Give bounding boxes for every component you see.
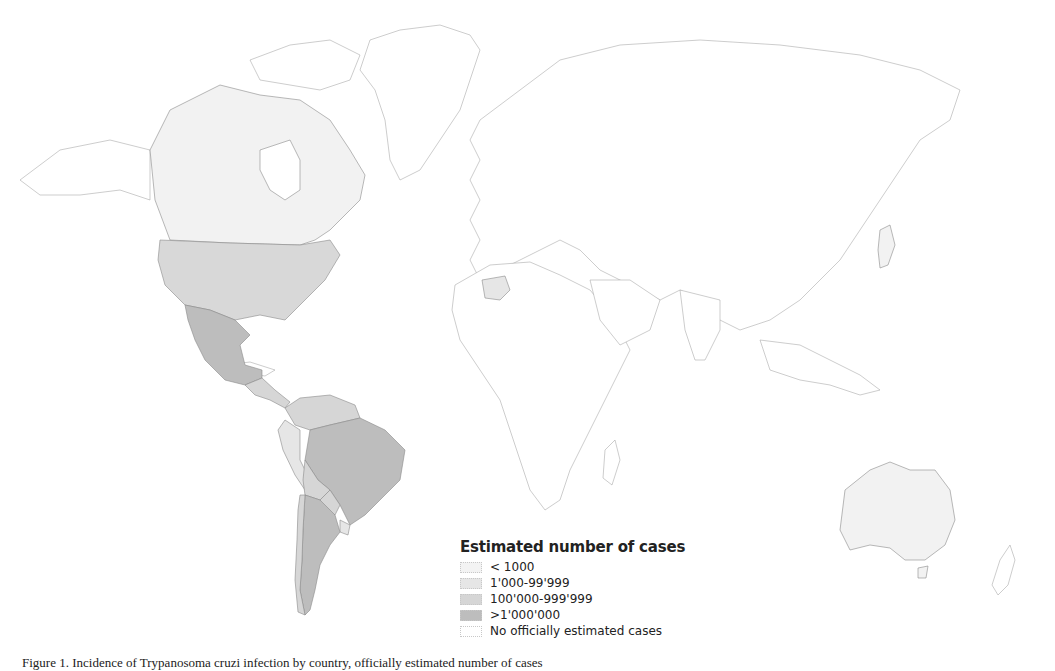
new-zealand bbox=[992, 545, 1015, 595]
figure-caption: Figure 1. Incidence of Trypanosoma cruzi… bbox=[22, 655, 543, 671]
arctic-islands bbox=[250, 40, 360, 90]
legend-label: 100'000-999'999 bbox=[490, 592, 593, 606]
legend-swatch bbox=[460, 594, 482, 605]
central-america[interactable] bbox=[245, 378, 290, 408]
legend-swatch bbox=[460, 578, 482, 589]
legend-label: < 1000 bbox=[490, 560, 534, 574]
australia[interactable] bbox=[840, 462, 955, 560]
legend-label: >1'000'000 bbox=[490, 608, 560, 622]
legend: Estimated number of cases < 1000 1'000-9… bbox=[460, 538, 685, 639]
legend-label: No officially estimated cases bbox=[490, 624, 662, 638]
legend-item: >1'000'000 bbox=[460, 607, 685, 623]
india bbox=[680, 290, 720, 360]
alaska bbox=[20, 140, 150, 200]
legend-item: < 1000 bbox=[460, 559, 685, 575]
japan[interactable] bbox=[878, 225, 895, 268]
legend-label: 1'000-99'999 bbox=[490, 576, 570, 590]
southeast-asia-islands bbox=[760, 340, 880, 395]
legend-item: No officially estimated cases bbox=[460, 623, 685, 639]
greenland bbox=[360, 25, 480, 180]
canada[interactable] bbox=[150, 85, 365, 245]
madagascar bbox=[603, 440, 620, 485]
legend-item: 1'000-99'999 bbox=[460, 575, 685, 591]
legend-title: Estimated number of cases bbox=[460, 538, 685, 556]
legend-swatch bbox=[460, 610, 482, 621]
legend-item: 100'000-999'999 bbox=[460, 591, 685, 607]
legend-swatch bbox=[460, 562, 482, 573]
legend-swatch bbox=[460, 626, 482, 637]
tasmania[interactable] bbox=[918, 566, 928, 578]
